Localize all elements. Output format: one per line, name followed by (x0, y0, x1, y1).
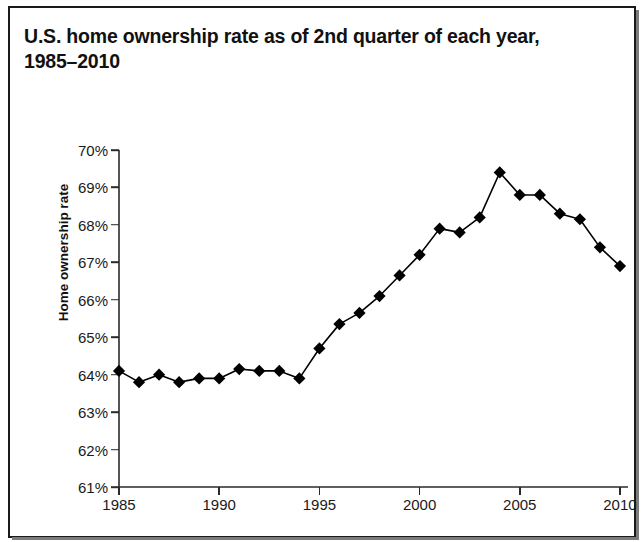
figure-container: U.S. home ownership rate as of 2nd quart… (0, 0, 642, 542)
data-point-marker: 1992: 64.1% (253, 365, 265, 377)
data-point-marker: 1990: 63.9% (213, 372, 225, 384)
data-point-marker: 2002: 67.8% (454, 226, 466, 238)
data-point-marker: 1993: 64.1% (273, 365, 285, 377)
data-line (119, 172, 620, 382)
axis-lines (119, 150, 628, 487)
data-point-marker: 1986: 63.8% (133, 376, 145, 388)
data-point-marker: 1991: 64.15% (233, 363, 245, 375)
data-point-marker: 2003: 68.2% (474, 211, 486, 223)
data-point-marker: 1988: 63.8% (173, 376, 185, 388)
data-point-marker: 1987: 64% (153, 369, 165, 381)
data-markers: 1985: 64.1%1986: 63.8%1987: 64%1988: 63.… (113, 166, 626, 388)
chart-svg: 1985: 64.1%1986: 63.8%1987: 64%1988: 63.… (0, 0, 642, 542)
data-point-marker: 1985: 64.1% (113, 365, 125, 377)
data-point-marker: 2008: 68.15% (574, 213, 586, 225)
data-point-marker: 1989: 63.9% (193, 372, 205, 384)
data-point-marker: 1994: 63.9% (293, 372, 305, 384)
plot-area: Home ownership rate 61%62%63%64%65%66%67… (0, 0, 642, 542)
